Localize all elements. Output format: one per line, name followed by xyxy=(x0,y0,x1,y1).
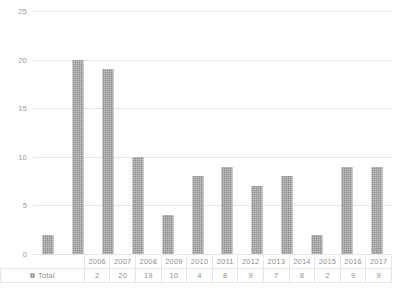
bar-slot-2008 xyxy=(93,11,123,254)
y-tick-label-10: 10 xyxy=(18,152,27,161)
table-header-cell-2007: 2007 xyxy=(110,255,136,269)
table-value-cell-2013: 7 xyxy=(264,269,290,283)
table-header-cell-2009: 2009 xyxy=(161,255,187,269)
bar-2012[interactable] xyxy=(222,167,233,254)
bar-slot-2006 xyxy=(33,11,63,254)
bar-slot-2010 xyxy=(153,11,183,254)
legend-entry-total: Total xyxy=(1,269,85,283)
series-color-swatch-icon xyxy=(30,273,35,278)
bar-slot-2011 xyxy=(183,11,213,254)
table-value-cell-2016: 9 xyxy=(340,269,366,283)
bars-layer xyxy=(33,11,392,254)
table-value-cell-2017: 9 xyxy=(366,269,392,283)
table-header-cell-2016: 2016 xyxy=(340,255,366,269)
bar-slot-2016 xyxy=(332,11,362,254)
table-value-cell-2010: 4 xyxy=(187,269,213,283)
bar-slot-2007 xyxy=(63,11,93,254)
table-header-cell-2014: 2014 xyxy=(289,255,315,269)
table-corner-blank xyxy=(1,255,85,269)
table-value-cell-2006: 2 xyxy=(84,269,110,283)
bar-slot-2015 xyxy=(302,11,332,254)
bar-slot-2014 xyxy=(272,11,302,254)
table-value-cell-2015: 2 xyxy=(315,269,341,283)
table-value-cell-2011: 8 xyxy=(212,269,238,283)
table-header-cell-2011: 2011 xyxy=(212,255,238,269)
table-header-cell-2012: 2012 xyxy=(238,255,264,269)
bar-2007[interactable] xyxy=(72,60,83,254)
bar-2017[interactable] xyxy=(372,167,383,254)
table-header-cell-2008: 2008 xyxy=(136,255,162,269)
table-header-cell-2015: 2015 xyxy=(315,255,341,269)
table-row-header: 2006200720082009201020112012201320142015… xyxy=(1,255,392,269)
bar-chart-with-data-table: 0510152025 20062007200820092010201120122… xyxy=(0,0,399,300)
chart-data-table: 2006200720082009201020112012201320142015… xyxy=(0,254,392,283)
table-row-total: Total 220191048978299 xyxy=(1,269,392,283)
legend-label-total: Total xyxy=(38,271,55,280)
table-header-cell-2010: 2010 xyxy=(187,255,213,269)
bar-2016[interactable] xyxy=(342,167,353,254)
y-tick-label-25: 25 xyxy=(18,7,27,16)
bar-slot-2012 xyxy=(213,11,243,254)
bar-slot-2017 xyxy=(362,11,392,254)
bar-2009[interactable] xyxy=(132,157,143,254)
table-header-cell-2017: 2017 xyxy=(366,255,392,269)
table-value-cell-2008: 19 xyxy=(136,269,162,283)
table-value-cell-2012: 9 xyxy=(238,269,264,283)
y-tick-label-20: 20 xyxy=(18,55,27,64)
bar-2015[interactable] xyxy=(312,235,323,254)
y-tick-label-5: 5 xyxy=(23,201,27,210)
table-value-cell-2007: 20 xyxy=(110,269,136,283)
table-header-cell-2013: 2013 xyxy=(264,255,290,269)
bar-2008[interactable] xyxy=(102,69,113,254)
bar-2006[interactable] xyxy=(42,235,53,254)
bar-2014[interactable] xyxy=(282,176,293,254)
bar-2013[interactable] xyxy=(252,186,263,254)
bar-slot-2013 xyxy=(242,11,272,254)
y-tick-label-15: 15 xyxy=(18,104,27,113)
bar-2010[interactable] xyxy=(162,215,173,254)
bar-slot-2009 xyxy=(123,11,153,254)
table-value-cell-2009: 10 xyxy=(161,269,187,283)
table-header-cell-2006: 2006 xyxy=(84,255,110,269)
table-value-cell-2014: 8 xyxy=(289,269,315,283)
plot-area: 0510152025 xyxy=(33,11,392,254)
bar-2011[interactable] xyxy=(192,176,203,254)
